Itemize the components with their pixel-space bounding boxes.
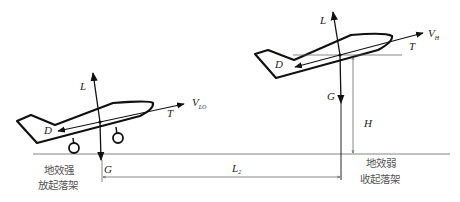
weight-arrow [340, 55, 341, 103]
distance-dimension: L2 [102, 160, 340, 182]
left-caption-line2: 放起落架 [38, 179, 79, 191]
distance-label: L2 [231, 162, 241, 175]
lift-label: L [319, 14, 326, 26]
velocity-label: VLO [192, 96, 207, 110]
flight-diagram: L D T G VLO 地效强 放起落架 L D T G VH H 地效弱 收起… [0, 0, 460, 202]
right-aircraft: L D T G VH H 地效弱 收起落架 [255, 12, 440, 185]
thrust-label: T [167, 107, 174, 119]
right-caption-line2: 收起落架 [360, 173, 401, 185]
weight-label: G [327, 90, 335, 102]
drag-label: D [274, 58, 283, 70]
thrust-label: T [409, 40, 416, 52]
weight-label: G [104, 163, 112, 175]
lift-label: L [79, 80, 86, 92]
drag-label: D [43, 124, 52, 136]
left-aircraft: L D T G VLO 地效强 放起落架 [17, 73, 207, 191]
left-caption-line1: 地效强 [44, 164, 75, 176]
right-caption-line1: 地效弱 [366, 157, 396, 169]
height-label: H [363, 117, 373, 129]
velocity-label: VH [428, 27, 440, 41]
